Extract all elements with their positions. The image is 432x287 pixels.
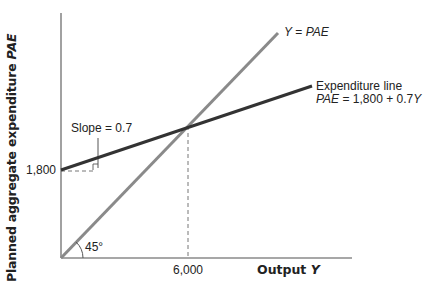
angle-arc [76, 242, 83, 258]
angle-annotation: 45° [85, 240, 103, 254]
expenditure-line-label: Expenditure line [316, 79, 402, 93]
x-axis-label: Output Y [257, 262, 320, 277]
slope-annotation: Slope = 0.7 [71, 121, 132, 135]
expenditure-line-equation: PAE = 1,800 + 0.7Y [316, 92, 421, 106]
keynesian-cross-diagram [0, 0, 432, 287]
y-intercept-tick-label: 1,800 [26, 163, 56, 177]
y-equals-pae-label: Y = PAE [284, 25, 329, 39]
y-axis-label: Planned aggregate expenditure PAE [4, 34, 19, 282]
y-equals-pae-line [61, 33, 278, 258]
x-equilibrium-tick-label: 6,000 [173, 263, 203, 277]
